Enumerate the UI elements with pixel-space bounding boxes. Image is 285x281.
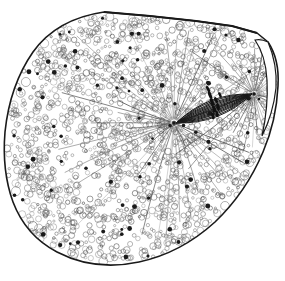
dark-granule (177, 240, 181, 244)
centrosome-core (172, 121, 176, 125)
dark-granule (140, 88, 144, 92)
dark-granule (50, 189, 53, 192)
dark-granule (258, 98, 261, 101)
dark-granule (132, 204, 137, 209)
dark-granule (205, 204, 210, 209)
dark-granule (13, 193, 17, 197)
dark-granule (137, 32, 141, 36)
dark-granule (129, 46, 132, 49)
dark-granule (101, 17, 104, 20)
dark-granule (167, 227, 172, 232)
dark-granule (96, 83, 100, 87)
dark-granule (206, 140, 210, 144)
figure-root: Cell in mitosis — ink drawing ovum under… (0, 0, 285, 281)
dark-granule (236, 38, 241, 43)
dark-granule (177, 160, 181, 164)
dark-granule (101, 230, 105, 234)
dark-granule (64, 64, 67, 67)
dark-granule (52, 70, 57, 75)
figure-background (0, 0, 285, 281)
dark-granule (84, 166, 88, 170)
dark-granule (115, 40, 119, 44)
dark-granule (212, 27, 216, 31)
dark-granule (21, 198, 25, 202)
dark-granule (73, 49, 78, 54)
dark-granule (182, 124, 186, 128)
dark-granule (188, 177, 193, 182)
dark-granule (36, 72, 39, 75)
dark-granule (40, 95, 44, 99)
dark-granule (68, 31, 71, 34)
dark-granule (160, 83, 165, 88)
dark-granule (225, 75, 229, 79)
dark-granule (246, 131, 250, 135)
dark-granule (124, 255, 129, 260)
dark-granule (206, 81, 210, 85)
dark-granule (31, 157, 36, 162)
dark-granule (248, 70, 251, 73)
dark-granule (151, 137, 154, 140)
dark-granule (245, 159, 250, 164)
dark-granule (12, 134, 16, 138)
dark-granule (136, 58, 140, 62)
dark-granule (224, 34, 227, 37)
dark-granule (194, 130, 197, 133)
dark-granule (120, 76, 124, 80)
dark-granule (127, 226, 132, 231)
dark-granule (69, 242, 72, 245)
dark-granule (147, 162, 151, 166)
dark-granule (121, 59, 124, 62)
dark-granule (18, 87, 22, 91)
dark-granule (59, 33, 62, 36)
dark-granule (138, 175, 141, 178)
dark-granule (26, 164, 31, 169)
dark-granule (41, 232, 46, 237)
dark-granule (115, 86, 118, 89)
dark-granule (46, 59, 51, 64)
dark-granule (58, 243, 62, 247)
dark-granule (120, 228, 123, 231)
centrosome-core (252, 92, 255, 95)
dark-granule (130, 32, 134, 36)
dark-granule (52, 125, 56, 129)
dark-granule (202, 49, 206, 53)
dark-granule (121, 203, 125, 207)
dark-granule (146, 255, 149, 258)
dark-granule (208, 147, 211, 150)
cell-mitosis-illustration (0, 0, 285, 281)
dark-granule (120, 232, 124, 236)
dark-granule (185, 185, 189, 189)
dark-granule (138, 117, 141, 120)
dark-granule (147, 196, 150, 199)
dark-granule (128, 90, 131, 93)
dark-granule (173, 102, 176, 105)
dark-granule (60, 160, 63, 163)
dark-granule (26, 69, 31, 74)
dark-granule (59, 134, 63, 138)
dark-granule (109, 180, 113, 184)
dark-granule (76, 240, 80, 244)
dark-granule (75, 65, 79, 69)
